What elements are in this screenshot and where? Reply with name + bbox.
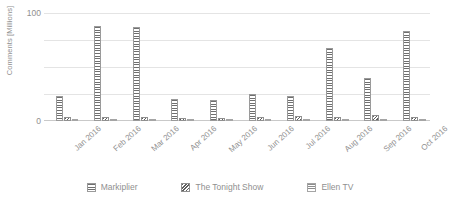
legend-label: Ellen TV: [321, 182, 353, 192]
x-tick-label: Jan 2016: [73, 124, 103, 153]
y-axis-tick-labels: 0100: [0, 0, 41, 126]
bar: [218, 118, 225, 121]
bar: [403, 31, 410, 121]
bar: [364, 78, 371, 121]
x-tick-label: Feb 2016: [111, 124, 142, 153]
bar-group: [133, 13, 157, 121]
bar: [226, 119, 233, 121]
legend-item[interactable]: Markiplier: [87, 182, 138, 192]
bar: [171, 99, 178, 121]
bar-group: [287, 13, 311, 121]
bar-group: [249, 13, 273, 121]
legend-swatch-icon: [307, 183, 316, 192]
x-tick-label: Apr 2016: [188, 124, 218, 152]
bar: [257, 117, 264, 121]
legend-swatch-icon: [87, 183, 96, 192]
bar: [334, 117, 341, 121]
legend-label: Markiplier: [101, 182, 138, 192]
bar: [380, 119, 387, 121]
bar: [287, 96, 294, 121]
x-tick-label: Jun 2016: [266, 124, 296, 153]
legend-label: The Tonight Show: [195, 182, 263, 192]
bar: [149, 119, 156, 121]
bar: [411, 117, 418, 121]
legend-swatch-icon: [181, 183, 190, 192]
bar: [64, 117, 71, 121]
bar-group: [210, 13, 234, 121]
y-tick-label: 0: [36, 117, 41, 125]
bar: [72, 119, 79, 121]
bar-group: [326, 13, 350, 121]
x-tick-label: Oct 2016: [420, 124, 450, 152]
bar: [110, 119, 117, 121]
x-tick-label: Aug 2016: [343, 124, 374, 154]
bar: [141, 117, 148, 121]
bar: [56, 96, 63, 121]
bar: [249, 94, 256, 121]
bar-group: [171, 13, 195, 121]
bar: [187, 119, 194, 121]
bar: [419, 119, 426, 121]
x-tick-label: Jul 2016: [303, 124, 332, 151]
x-tick-label: May 2016: [227, 124, 259, 154]
bar: [102, 117, 109, 121]
bar-group: [364, 13, 388, 121]
bar: [210, 100, 217, 121]
y-tick-label: 100: [27, 9, 41, 17]
bar-group: [56, 13, 80, 121]
bar: [179, 118, 186, 121]
bar-group: [94, 13, 118, 121]
bar: [295, 116, 302, 121]
legend-item[interactable]: The Tonight Show: [181, 182, 263, 192]
bar: [133, 27, 140, 121]
bar: [94, 26, 101, 121]
bar-group: [403, 13, 427, 121]
bar: [265, 119, 272, 121]
bar: [326, 48, 333, 121]
legend-item[interactable]: Ellen TV: [307, 182, 353, 192]
bar: [303, 119, 310, 121]
x-axis-tick-labels: Jan 2016Feb 2016Mar 2016Apr 2016May 2016…: [44, 122, 430, 162]
x-tick-label: Mar 2016: [150, 124, 181, 153]
bar: [342, 119, 349, 121]
chart-legend: MarkiplierThe Tonight ShowEllen TV: [0, 182, 440, 192]
x-tick-label: Sep 2016: [382, 124, 413, 154]
bar: [372, 115, 379, 121]
plot-area: [44, 13, 430, 121]
